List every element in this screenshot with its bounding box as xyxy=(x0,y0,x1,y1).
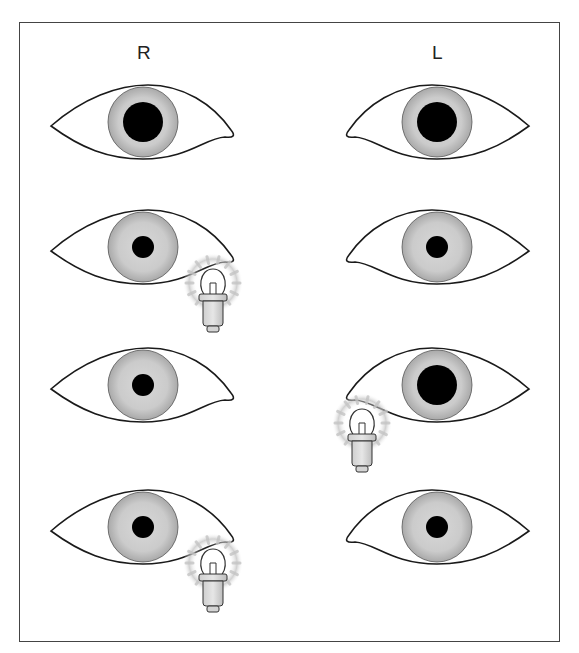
left-eye-row-1 xyxy=(347,85,529,159)
eyes-illustration xyxy=(0,0,579,653)
penlight-right-row-2 xyxy=(183,253,243,332)
right-eye-row-1 xyxy=(51,85,233,159)
pupil-large xyxy=(417,102,457,142)
pupil-small xyxy=(426,236,448,258)
penlight-right-row-4 xyxy=(183,533,243,612)
pupil-small xyxy=(132,374,154,396)
pupil-small xyxy=(132,516,154,538)
left-eye-row-4 xyxy=(347,490,529,564)
pupil-large xyxy=(417,365,457,405)
pupil-small xyxy=(132,236,154,258)
left-eye-row-2 xyxy=(347,210,529,284)
pupil-large xyxy=(123,102,163,142)
pupil-small xyxy=(426,516,448,538)
right-eye-row-3 xyxy=(51,348,233,422)
penlight-left-row-3 xyxy=(332,393,392,472)
